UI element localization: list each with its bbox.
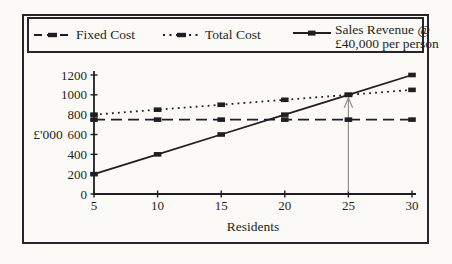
x-tick-label-20: 20: [278, 198, 291, 213]
marker-sales-revenue-40-000-per-person-x15: [217, 132, 225, 137]
marker-sales-revenue-40-000-per-person-x5: [90, 172, 98, 177]
marker-fixed-cost-x15: [217, 117, 225, 122]
marker-total-cost-x5: [90, 112, 98, 117]
x-tick-label-15: 15: [215, 198, 228, 213]
series-line-sales-revenue-40-000-per-person: [94, 75, 412, 174]
marker-total-cost-x10: [154, 107, 162, 112]
line-chart-plot-area: 02004006008001000120051015202530£'000Res…: [0, 0, 452, 264]
series-line-total-cost: [94, 90, 412, 115]
marker-fixed-cost-x10: [154, 117, 162, 122]
y-axis-title: £'000: [33, 127, 63, 142]
marker-total-cost-x30: [408, 88, 416, 93]
marker-fixed-cost-x5: [90, 117, 98, 122]
y-tick-label-400: 400: [68, 147, 88, 162]
marker-total-cost-x20: [281, 97, 289, 102]
x-tick-label-5: 5: [91, 198, 98, 213]
x-tick-label-30: 30: [406, 198, 419, 213]
marker-sales-revenue-40-000-per-person-x25: [345, 93, 353, 98]
marker-sales-revenue-40-000-per-person-x30: [408, 73, 416, 78]
marker-fixed-cost-x30: [408, 117, 416, 122]
y-tick-label-0: 0: [81, 187, 88, 202]
y-tick-label-200: 200: [68, 167, 88, 182]
x-axis-title: Residents: [227, 219, 280, 234]
marker-total-cost-x15: [217, 102, 225, 107]
y-tick-label-1200: 1200: [61, 68, 87, 83]
y-tick-label-1000: 1000: [61, 87, 87, 102]
marker-sales-revenue-40-000-per-person-x20: [281, 112, 289, 117]
x-tick-label-25: 25: [342, 198, 355, 213]
marker-fixed-cost-x25: [345, 117, 353, 122]
marker-sales-revenue-40-000-per-person-x10: [154, 152, 162, 157]
y-tick-label-600: 600: [68, 127, 88, 142]
marker-fixed-cost-x20: [281, 117, 289, 122]
scanned-breakeven-chart: Fixed Cost Total Cost Sales Revenue @ £4…: [0, 0, 452, 264]
y-tick-label-800: 800: [68, 107, 88, 122]
x-tick-label-10: 10: [151, 198, 164, 213]
